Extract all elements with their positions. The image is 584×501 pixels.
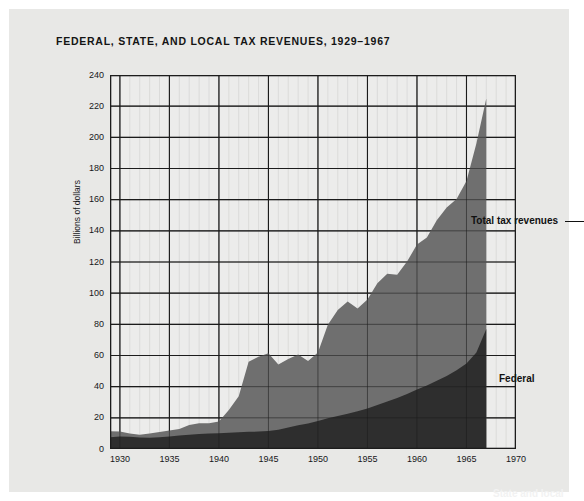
y-tick-label: 180 [89,164,104,173]
x-tick-label: 1950 [308,455,328,464]
y-axis-ticks: 020406080100120140160180200220240 [73,75,104,449]
y-tick-label: 40 [94,382,104,391]
x-tick-label: 1960 [407,455,427,464]
y-tick-label: 20 [94,413,104,422]
stacked-area-chart [110,75,516,449]
x-tick-label: 1935 [159,455,179,464]
annotation-state-and-local: State and local [493,489,564,499]
x-tick-label: 1955 [357,455,377,464]
figure-page: FEDERAL, STATE, AND LOCAL TAX REVENUES, … [9,9,569,492]
y-tick-label: 80 [94,320,104,329]
annotation-federal: Federal [499,374,535,384]
plot-area: Total tax revenues Federal State and loc… [110,75,516,449]
y-tick-label: 200 [89,133,104,142]
y-tick-label: 100 [89,289,104,298]
y-tick-label: 140 [89,226,104,235]
page-title: FEDERAL, STATE, AND LOCAL TAX REVENUES, … [56,35,390,47]
y-tick-label: 0 [99,445,104,454]
x-axis-ticks: 193019351940194519501955196019651970 [110,455,516,471]
annotation-leader-line [565,221,584,222]
y-tick-label: 240 [89,71,104,80]
x-tick-label: 1970 [506,455,526,464]
y-tick-label: 220 [89,102,104,111]
x-tick-label: 1945 [258,455,278,464]
x-tick-label: 1940 [209,455,229,464]
y-tick-label: 120 [89,258,104,267]
y-tick-label: 160 [89,195,104,204]
x-tick-label: 1965 [456,455,476,464]
x-tick-label: 1930 [110,455,130,464]
y-tick-label: 60 [94,351,104,360]
annotation-total-tax-revenues: Total tax revenues [471,216,558,226]
